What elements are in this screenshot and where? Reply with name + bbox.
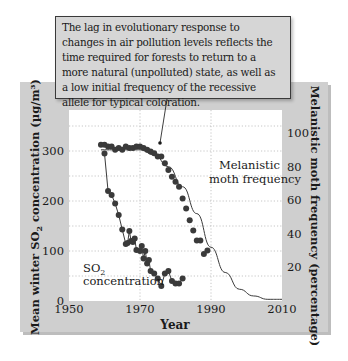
figure: 1950197019902010010020030020406080100 Me… (0, 0, 348, 361)
so2-point (102, 151, 108, 157)
callout-box: The lag in evolutionary response to chan… (55, 16, 291, 99)
y-tick-label-left: 100 (42, 244, 64, 258)
y-tick-label-left: 200 (42, 194, 64, 208)
y-tick-label-right: 60 (287, 193, 302, 207)
melanistic-point (190, 227, 196, 233)
so2-point (139, 243, 145, 249)
y-axis-label-left: Mean winter SO2 concentration (µg/m³) (28, 79, 44, 335)
y-tick-label-right: 100 (287, 126, 309, 140)
melanistic-point (180, 196, 186, 202)
melanistic-point (169, 174, 175, 180)
so2-point (109, 192, 115, 198)
y-tick-label-right: 40 (287, 227, 302, 241)
so2-point (112, 201, 118, 207)
y-tick-label-left: 300 (42, 144, 64, 158)
melanistic-point (204, 248, 210, 254)
y-tick-label-left: 0 (57, 294, 64, 308)
x-tick-label: 1970 (125, 302, 154, 316)
so2-point (142, 248, 148, 254)
so2-point (141, 256, 147, 262)
so2-point (176, 281, 182, 287)
so2-point (126, 228, 132, 234)
x-axis-label: Year (159, 318, 190, 332)
so2-point (180, 276, 186, 282)
y-axis-label-right: Melanistic moth frequency (percentage) (308, 86, 322, 346)
so2-point (116, 212, 122, 218)
melanistic-point (197, 238, 203, 244)
callout-text: The lag in evolutionary response to chan… (62, 21, 275, 108)
x-tick-label: 1990 (196, 302, 225, 316)
so2-point (165, 268, 171, 274)
melanistic-point (187, 217, 193, 223)
y-tick-label-right: 20 (287, 260, 302, 274)
melanistic-point (183, 206, 189, 212)
so2-point (119, 227, 125, 233)
callout-pointer-dot (158, 141, 162, 145)
so2-point (132, 236, 138, 242)
melanistic-point (158, 154, 164, 160)
x-tick-label: 2010 (267, 302, 296, 316)
so2-point (146, 257, 152, 263)
